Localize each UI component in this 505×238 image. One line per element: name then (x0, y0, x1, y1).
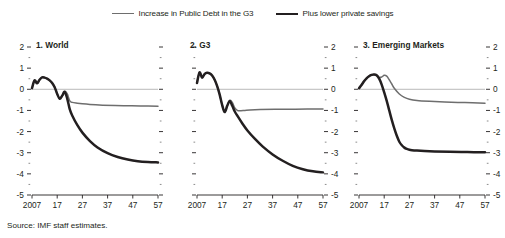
y-tick-label: 2 (493, 43, 505, 51)
x-tick-label: 17 (208, 201, 236, 209)
plot-area-world (6, 38, 174, 210)
y-tick-label: -4 (6, 170, 24, 178)
y-tick-label: 1 (6, 64, 24, 72)
y-tick-label: 1 (493, 64, 505, 72)
y-tick-label: -5 (6, 191, 24, 199)
x-tick-label: 2007 (183, 201, 211, 209)
legend-label-private-savings: Plus lower private savings (303, 9, 394, 18)
x-tick-label: 27 (395, 201, 423, 209)
x-tick-label: 17 (43, 201, 71, 209)
y-tick-label: -1 (493, 106, 505, 114)
y-tick-label: -2 (6, 128, 24, 136)
x-tick-label: 17 (370, 201, 398, 209)
y-tick-label: -5 (493, 191, 505, 199)
x-tick-label: 27 (68, 201, 96, 209)
x-tick-label: 27 (233, 201, 261, 209)
chart-panel-world: 1. World 210-1-2-3-4-520071727374757 (6, 38, 174, 210)
x-tick-label: 37 (94, 201, 122, 209)
x-tick-label: 37 (259, 201, 287, 209)
x-tick-label: 2007 (18, 201, 46, 209)
plot-area-emerging-markets (333, 38, 501, 210)
y-tick-label: -2 (493, 128, 505, 136)
y-tick-label: -3 (6, 149, 24, 157)
y-tick-label: 2 (6, 43, 24, 51)
y-tick-label: -4 (493, 170, 505, 178)
chart-legend: Increase in Public Debt in the G3 Plus l… (0, 9, 505, 18)
chart-panel-emerging-markets: 3. Emerging Markets 210-1-2-3-4-52007172… (333, 38, 501, 210)
legend-entry-public-debt: Increase in Public Debt in the G3 (112, 9, 254, 18)
y-tick-label: -1 (6, 106, 24, 114)
y-tick-label: 0 (6, 85, 24, 93)
legend-entry-private-savings: Plus lower private savings (276, 9, 394, 18)
x-tick-label: 2007 (345, 201, 373, 209)
y-tick-label: -3 (493, 149, 505, 157)
x-tick-label: 47 (446, 201, 474, 209)
x-tick-label: 57 (144, 201, 172, 209)
plot-area-g3 (171, 38, 339, 210)
line-swatch-thin-icon (112, 13, 134, 14)
x-tick-label: 47 (284, 201, 312, 209)
chart-panel-g3: 2. G3 210-1-2-3-4-520071727374757 (171, 38, 339, 210)
x-tick-label: 57 (471, 201, 499, 209)
line-swatch-thick-icon (276, 13, 298, 15)
figure-container: Increase in Public Debt in the G3 Plus l… (0, 0, 505, 238)
x-tick-label: 47 (119, 201, 147, 209)
y-tick-label: 0 (493, 85, 505, 93)
source-note: Source: IMF staff estimates. (7, 221, 108, 230)
x-tick-label: 37 (421, 201, 449, 209)
legend-label-public-debt: Increase in Public Debt in the G3 (139, 9, 254, 18)
